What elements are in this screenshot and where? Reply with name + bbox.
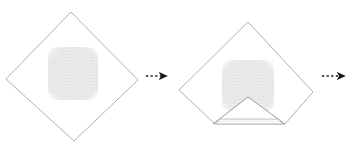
folding-sequence-diagram	[0, 0, 353, 143]
step-2-group	[179, 22, 313, 124]
diagram-canvas	[0, 0, 353, 143]
step-1-group	[6, 12, 138, 141]
fold-hem-band	[215, 119, 283, 124]
step-1-mesh-patch	[48, 47, 98, 100]
mesh-patch-fill	[48, 47, 98, 100]
